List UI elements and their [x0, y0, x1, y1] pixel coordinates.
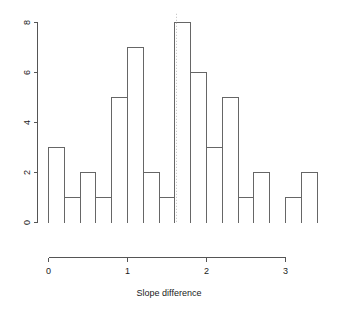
x-tick-label: 1	[125, 266, 130, 276]
histogram-bar	[286, 198, 302, 223]
x-tick-labels: 0123	[46, 266, 288, 276]
histogram-bar	[301, 173, 317, 223]
histogram-bar	[159, 198, 175, 223]
histogram-bar	[128, 48, 144, 223]
histogram-bar	[143, 173, 159, 223]
histogram-bar	[175, 23, 191, 223]
y-tick-label: 4	[22, 120, 32, 125]
histogram-bar	[96, 198, 112, 223]
y-tick-label: 2	[22, 170, 32, 175]
y-tick-label: 6	[22, 70, 32, 75]
histogram-figure: 0123 02468 Slope difference	[0, 0, 338, 315]
histogram-bar	[207, 148, 223, 223]
histogram-bar	[112, 98, 128, 223]
x-axis-title: Slope difference	[137, 288, 202, 298]
histogram-bar	[254, 173, 270, 223]
y-tick-labels: 02468	[22, 20, 32, 225]
x-tick-label: 2	[204, 266, 209, 276]
plot-canvas: 0123 02468 Slope difference	[0, 0, 338, 315]
histogram-bar	[64, 198, 80, 223]
histogram-bar	[238, 198, 254, 223]
y-tick-label: 0	[22, 220, 32, 225]
histogram-bar	[191, 73, 207, 223]
histogram-bars	[49, 23, 318, 223]
histogram-bar	[80, 173, 96, 223]
y-axis	[34, 23, 38, 223]
histogram-bar	[222, 98, 238, 223]
x-axis	[49, 258, 286, 262]
y-tick-label: 8	[22, 20, 32, 25]
x-tick-label: 0	[46, 266, 51, 276]
histogram-bar	[49, 148, 65, 223]
x-tick-label: 3	[283, 266, 288, 276]
